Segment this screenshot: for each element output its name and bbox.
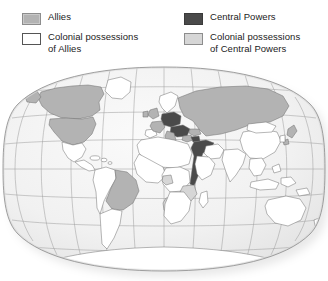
legend-column-right: Central Powers Colonial possessions of C… [184,11,300,60]
legend-item-central-colonial: Colonial possessions of Central Powers [184,31,300,54]
legend-item-allies-colonial: Colonial possessions of Allies [22,31,138,54]
legend-item-central-powers: Central Powers [184,11,300,25]
world-map [0,58,328,281]
central-powers-swatch [184,13,203,25]
allies-colonial-swatch [22,33,41,45]
central-colonial-swatch [184,33,203,45]
legend-label-allies: Allies [48,11,71,23]
region-german-empire [161,112,181,127]
legend-label-central-powers: Central Powers [210,11,276,23]
map-legend: Allies Colonial possessions of Allies Ce… [0,0,328,60]
allies-swatch [22,13,41,25]
world-map-svg [0,58,328,281]
legend-label-central-colonial: Colonial possessions of Central Powers [210,31,300,54]
legend-column-left: Allies Colonial possessions of Allies [22,11,138,60]
legend-label-allies-colonial: Colonial possessions of Allies [48,31,138,54]
legend-item-allies: Allies [22,11,138,25]
region-korea [280,135,285,142]
